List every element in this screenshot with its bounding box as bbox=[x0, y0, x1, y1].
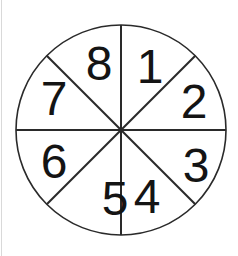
sector-label-4: 4 bbox=[134, 170, 161, 223]
sector-label-1: 1 bbox=[137, 40, 164, 93]
sector-label-6: 6 bbox=[41, 135, 68, 188]
sector-label-8: 8 bbox=[86, 37, 113, 90]
sector-label-5: 5 bbox=[102, 172, 129, 225]
sector-label-2: 2 bbox=[181, 75, 208, 128]
spinner-wheel-diagram: 1 2 3 4 5 6 7 8 bbox=[0, 0, 238, 256]
sector-label-3: 3 bbox=[183, 139, 210, 192]
sector-label-7: 7 bbox=[41, 72, 68, 125]
spinner-figure: 1 2 3 4 5 6 7 8 bbox=[0, 0, 238, 256]
